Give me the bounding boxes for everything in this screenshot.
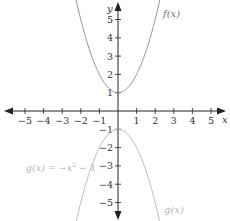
x-tick-label: −3 (55, 115, 69, 126)
y-tick-label: 4 (107, 32, 113, 43)
x-tick-label: 1 (134, 115, 140, 126)
f-curve-label: f(x) (162, 8, 180, 19)
y-tick-label: 3 (107, 51, 113, 62)
y-axis-down-arrow-icon (115, 211, 122, 220)
y-tick-label: −5 (99, 197, 113, 208)
y-tick-label: −4 (99, 179, 113, 190)
y-tick-label: −3 (99, 160, 113, 171)
g-eq-suffix: − 1 (76, 162, 96, 173)
x-tick-label: −4 (37, 115, 51, 126)
x-tick-label: 2 (152, 115, 158, 126)
x-axis-label: x (222, 114, 228, 125)
x-tick-label: 4 (189, 115, 195, 126)
g-equation-annotation: g(x) = −x2 − 1 (26, 161, 96, 173)
y-tick-label: 2 (107, 69, 113, 80)
g-curve-label: g(x) (164, 204, 184, 215)
y-axis-up-arrow-icon (115, 2, 122, 11)
x-tick-label: 5 (208, 115, 214, 126)
x-tick-label: −5 (18, 115, 32, 126)
y-axis-label: y (106, 3, 113, 14)
g-eq-prefix: g(x) = −x (26, 162, 73, 173)
axes (8, 4, 222, 217)
x-tick-label: 3 (171, 115, 177, 126)
y-tick-label: −1 (99, 124, 113, 135)
x-tick-label: −2 (74, 115, 88, 126)
function-graph: −5−4−3−2−112345 54321−1−2−3−4−5 x y f(x)… (0, 0, 230, 221)
x-axis-left-arrow-icon (4, 108, 13, 115)
y-tick-label: 5 (107, 14, 113, 25)
